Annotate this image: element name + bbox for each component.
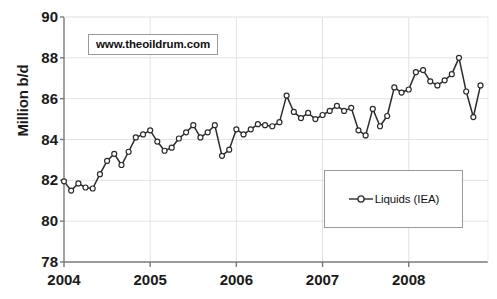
data-point (184, 130, 189, 135)
data-point (327, 108, 332, 113)
data-point (105, 158, 110, 163)
data-point (406, 87, 411, 92)
chart-container: Million b/d 90888684828078 2004200520062… (0, 0, 497, 299)
legend-marker-icon (348, 193, 374, 205)
data-point (219, 153, 224, 158)
watermark-label: www.theoildrum.com (88, 34, 218, 55)
data-point (385, 114, 390, 119)
data-point (298, 116, 303, 121)
data-point (378, 124, 383, 129)
data-point (471, 115, 476, 120)
data-point (270, 124, 275, 129)
data-point (313, 117, 318, 122)
data-point (162, 148, 167, 153)
data-point (133, 135, 138, 140)
data-point (363, 133, 368, 138)
data-point (263, 123, 268, 128)
data-point (212, 123, 217, 128)
data-point (428, 79, 433, 84)
data-point (248, 127, 253, 132)
data-point (234, 127, 239, 132)
data-point (148, 128, 153, 133)
data-point (413, 70, 418, 75)
data-point (306, 110, 311, 115)
legend: Liquids (IEA) (324, 170, 463, 228)
data-point (449, 72, 454, 77)
data-point (176, 136, 181, 141)
data-point (126, 149, 131, 154)
data-point (291, 109, 296, 114)
data-point (320, 113, 325, 118)
data-point (284, 93, 289, 98)
data-point (255, 122, 260, 127)
data-point (435, 83, 440, 88)
data-point (464, 89, 469, 94)
data-point (97, 172, 102, 177)
data-point (169, 145, 174, 150)
data-point (478, 83, 483, 88)
data-point (342, 108, 347, 113)
data-point (421, 68, 426, 73)
data-point (442, 78, 447, 83)
legend-item-liquids-iea: Liquids (IEA) (348, 193, 440, 205)
data-point (334, 103, 339, 108)
data-point (205, 130, 210, 135)
data-point (76, 181, 81, 186)
data-point (227, 147, 232, 152)
data-point (456, 55, 461, 60)
data-point (277, 120, 282, 125)
data-point (241, 132, 246, 137)
data-point (155, 139, 160, 144)
data-point (112, 151, 117, 156)
data-point (83, 185, 88, 190)
data-point (69, 188, 74, 193)
data-point (141, 132, 146, 137)
data-point (399, 90, 404, 95)
plot-area (0, 0, 497, 299)
data-point (62, 179, 67, 184)
legend-label: Liquids (IEA) (375, 193, 440, 205)
data-point (191, 123, 196, 128)
data-point (356, 128, 361, 133)
data-point (119, 163, 124, 168)
data-point (90, 186, 95, 191)
data-point (370, 106, 375, 111)
data-point (198, 135, 203, 140)
data-point (392, 85, 397, 90)
data-point (349, 105, 354, 110)
